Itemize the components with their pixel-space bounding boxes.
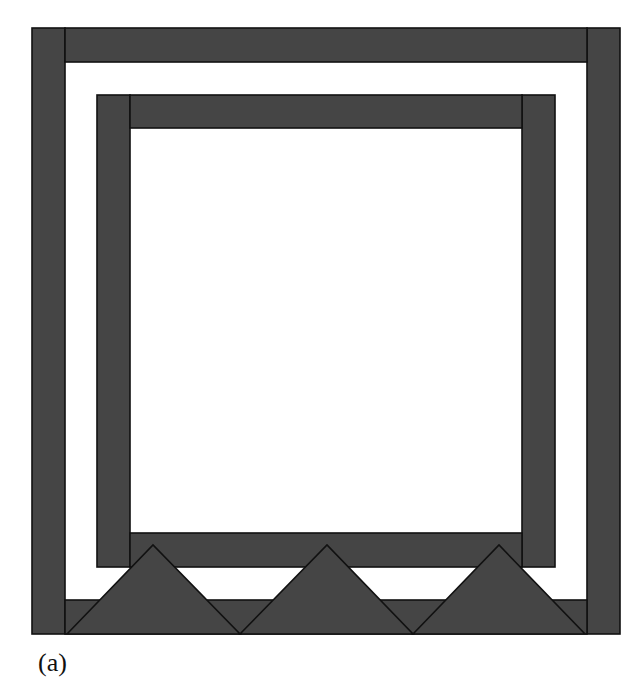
figure-label: (a) — [38, 650, 67, 676]
inner-right-bar — [522, 95, 555, 567]
inner-left-bar — [97, 95, 130, 567]
outer-right-bar — [587, 28, 620, 634]
outer-top-bar — [65, 28, 587, 62]
inner-top-bar — [130, 95, 522, 128]
outer-left-bar — [32, 28, 65, 634]
